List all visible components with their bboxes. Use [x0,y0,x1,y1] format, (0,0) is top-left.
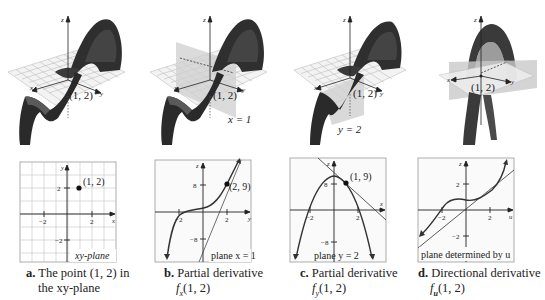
plot-c-plane-y2: x z −2 2 8 −8 (1, 9) plane y = 2 [290,158,386,262]
point-label: (2, 9) [229,181,251,193]
func-args: (1, 2) [319,281,346,295]
caption-b: b. Partial derivative fx(1, 2) [164,266,263,300]
caption-d: d. Directional derivative fu(1, 2) [418,266,541,300]
caption-line2: fy(1, 2) [300,281,398,300]
caption-letter: c. [300,266,309,280]
func-args: (1, 2) [438,281,465,295]
surface-panel-c: z x y (1, 2) y = 2 [272,0,408,150]
surface-shape-front [463,92,497,145]
plane-label: plane determined by u [421,249,510,260]
plot-b-plane-x1: y z −2 2 8 −8 (2, 9) plane x = 1 [155,160,251,262]
tick-h-neg: −2 [438,214,446,222]
caption-line1: Directional derivative [431,266,540,280]
caption-line2: the xy-plane [26,281,130,296]
v-axis-label: z [326,160,330,167]
plane-label: xy-plane [74,250,110,261]
plane-label: y = 2 [337,123,362,135]
tick-v-pos: 2 [57,185,61,193]
caption-letter: a. [26,266,35,280]
y-axis-label: y [241,86,246,94]
point-label: (1, 2) [69,89,93,102]
point-marker [76,185,81,190]
tick-h-pos: 2 [488,214,492,222]
h-axis-label: y [247,215,251,222]
caption-line1: Partial derivative [177,266,263,280]
plot-a-xy-plane: x y −2 2 2 −2 (1, 2) xy-plane [20,162,116,262]
v-axis-label: z [195,162,199,169]
tick-h-neg: −2 [39,218,47,226]
tick-v-pos: 2 [456,181,460,189]
tick-v-neg: −8 [190,236,198,244]
caption-line2: fu(1, 2) [418,281,541,300]
point-label: (1, 2) [213,89,237,102]
caption-line2: fx(1, 2) [164,281,263,300]
tick-v-pos: 8 [324,181,328,189]
surface-plot-b: z x y (1, 2) x = 1 [136,0,272,150]
point-label: (1, 2) [471,81,495,94]
tick-v-neg: −8 [321,239,329,247]
v-axis-label: y [60,164,64,171]
caption-letter: b. [164,266,174,280]
z-axis-label: z [202,16,206,24]
y-axis-label: y [99,90,104,98]
v-axis-label: z [458,160,462,167]
caption-letter: d. [418,266,428,280]
tick-v-neg: −2 [55,237,63,245]
surface-panel-a: z x y (1, 2) [0,0,136,150]
surface-plot-d: z x y (1, 2) [409,0,545,150]
surface-panel-d: z x y (1, 2) [409,0,545,150]
tick-h-pos: 2 [356,214,360,222]
tick-h-pos: 2 [90,218,94,226]
plane-label: plane y = 2 [314,250,359,261]
caption-a: a. The point (1, 2) in the xy-plane [26,266,130,296]
func-args: (1, 2) [183,281,210,295]
plane-label: plane x = 1 [211,250,256,261]
point-marker [343,180,348,185]
surface-panel-b: z x y (1, 2) x = 1 [136,0,272,150]
tick-h-neg: −2 [175,216,183,224]
tick-h-neg: −2 [306,214,314,222]
z-axis-label: z [342,16,346,24]
surface-plot-c: z x y (1, 2) y = 2 [272,0,408,150]
z-axis-label: z [60,16,64,24]
point-label: (1, 2) [353,87,377,100]
plot-d-direction-plane: u z −2 2 2 −2 plane determined by u [418,158,514,262]
y-axis-label: y [379,90,384,98]
surface-plot-a: z x y (1, 2) [0,0,136,150]
caption-line1: The point (1, 2) in [38,266,129,280]
point-label: (1, 2) [83,176,105,188]
tick-h-pos: 2 [225,216,229,224]
h-axis-label: x [111,217,115,224]
plane-label: x = 1 [227,113,251,125]
z-axis-label: z [473,16,477,24]
point-label: (1, 9) [350,171,372,183]
h-axis-label: x [379,200,383,207]
caption-line1: Partial derivative [312,266,398,280]
tick-v-neg: −2 [452,233,460,241]
tick-v-pos: 8 [193,182,197,190]
caption-c: c. Partial derivative fy(1, 2) [300,266,398,300]
